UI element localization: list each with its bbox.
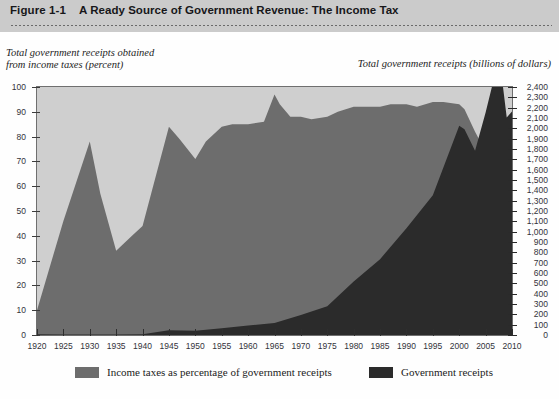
right-axis-tick [508, 252, 517, 253]
left-axis-tick [32, 137, 40, 138]
x-axis-tick [63, 329, 64, 336]
figure-title: A Ready Source of Government Revenue: Th… [79, 4, 399, 16]
right-axis-tick [508, 201, 517, 202]
x-axis-tick [406, 329, 407, 336]
legend-label: Income taxes as percentage of government… [107, 366, 332, 378]
chart-plot-wrapper [36, 86, 513, 336]
right-axis-tick [508, 211, 517, 212]
legend-swatch-receipts [369, 367, 393, 378]
right-axis-tick-label: 2,400 [520, 83, 548, 92]
right-axis-tick [508, 304, 517, 305]
x-axis-tick [354, 329, 355, 336]
left-axis-tick [32, 161, 40, 162]
left-axis-tick [32, 261, 40, 262]
right-axis-tick [508, 128, 517, 129]
x-axis-tick [459, 329, 460, 336]
right-axis-tick [508, 149, 517, 150]
left-axis-tick [32, 285, 40, 286]
right-axis-tick [508, 180, 517, 181]
legend-swatch-percent [75, 367, 99, 378]
right-axis-tick-label: 1,100 [520, 217, 548, 226]
right-axis-tick [508, 263, 517, 264]
right-axis-tick [508, 170, 517, 171]
right-axis-tick [508, 159, 517, 160]
left-axis-tick-label: 0 [4, 331, 26, 340]
right-axis-tick [508, 190, 517, 191]
figure-page: Figure 1-1 A Ready Source of Government … [0, 0, 559, 399]
left-axis-tick-label: 40 [4, 232, 26, 241]
right-axis-tick-label: 600 [520, 269, 548, 278]
right-axis-tick [508, 273, 517, 274]
right-axis-tick-label: 400 [520, 290, 548, 299]
right-axis-tick [508, 294, 517, 295]
right-axis-tick [508, 118, 517, 119]
right-axis-tick-label: 1,400 [520, 186, 548, 195]
x-axis-tick [222, 329, 223, 336]
left-axis-tick-label: 70 [4, 157, 26, 166]
left-axis-tick-label: 60 [4, 182, 26, 191]
figure-header-bar: Figure 1-1 A Ready Source of Government … [0, 0, 559, 32]
right-axis-caption: Total government receipts (billions of d… [358, 58, 551, 70]
right-axis-tick [508, 108, 517, 109]
x-axis-tick [116, 329, 117, 336]
left-axis-tick [32, 236, 40, 237]
right-axis-tick-label: 200 [520, 310, 548, 319]
right-axis-tick [508, 314, 517, 315]
right-axis-tick-label: 900 [520, 238, 548, 247]
figure-header-text: Figure 1-1 A Ready Source of Government … [10, 4, 399, 16]
x-axis-tick [327, 329, 328, 336]
left-axis-tick [32, 186, 40, 187]
header-dotted-rule [10, 24, 552, 27]
left-axis-tick [32, 112, 40, 113]
x-axis-tick [169, 329, 170, 336]
left-axis-tick [32, 211, 40, 212]
right-axis-tick-label: 500 [520, 279, 548, 288]
right-axis-tick-label: 0 [520, 331, 548, 340]
x-axis-tick [301, 329, 302, 336]
left-axis-tick-label: 100 [4, 83, 26, 92]
x-axis-tick [143, 329, 144, 336]
left-axis-tick-label: 90 [4, 108, 26, 117]
legend-item: Government receipts [369, 366, 493, 378]
right-axis-tick-label: 1,600 [520, 166, 548, 175]
right-axis-tick [508, 139, 517, 140]
left-axis-tick-label: 50 [4, 207, 26, 216]
left-axis-tick [32, 87, 40, 88]
right-axis-tick [508, 242, 517, 243]
legend-item: Income taxes as percentage of government… [75, 366, 332, 378]
x-axis-tick [195, 329, 196, 336]
right-axis-tick [508, 325, 517, 326]
right-axis-tick [508, 283, 517, 284]
x-axis-tick [37, 329, 38, 336]
left-axis-tick-label: 30 [4, 257, 26, 266]
right-axis-tick [508, 97, 517, 98]
x-axis-tick [380, 329, 381, 336]
right-axis-tick-label: 1,700 [520, 155, 548, 164]
right-axis-tick [508, 232, 517, 233]
left-axis-tick-label: 80 [4, 133, 26, 142]
right-axis-tick-label: 300 [520, 300, 548, 309]
right-axis-tick-label: 1,800 [520, 145, 548, 154]
left-axis-caption: Total government receipts obtained from … [6, 47, 154, 70]
right-axis-tick-label: 2,000 [520, 124, 548, 133]
x-axis-tick [433, 329, 434, 336]
chart-series-layer [37, 87, 512, 335]
x-axis-tick [512, 329, 513, 336]
right-axis-tick-label: 2,100 [520, 114, 548, 123]
right-axis-tick-label: 1,000 [520, 228, 548, 237]
right-axis-tick-label: 2,200 [520, 104, 548, 113]
left-axis-tick [32, 335, 40, 336]
right-axis-tick-label: 1,500 [520, 176, 548, 185]
x-axis-tick [486, 329, 487, 336]
chart-plot-area [36, 86, 513, 336]
right-axis-tick [508, 87, 517, 88]
x-axis-tick [248, 329, 249, 336]
left-axis-tick-label: 20 [4, 281, 26, 290]
right-axis-tick-label: 1,900 [520, 135, 548, 144]
x-axis-tick-label: 2010 [497, 341, 527, 351]
right-axis-tick [508, 221, 517, 222]
left-axis-tick [32, 310, 40, 311]
figure-number: Figure 1-1 [10, 4, 66, 16]
right-axis-tick-label: 1,300 [520, 197, 548, 206]
right-axis-tick-label: 700 [520, 259, 548, 268]
